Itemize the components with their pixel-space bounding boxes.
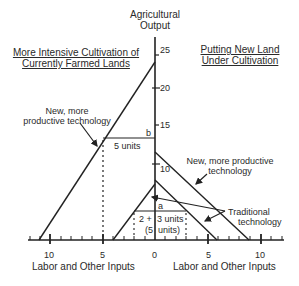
x-tick-left-10: 10 [44,250,54,260]
y-axis-ticks [152,55,160,164]
five-units-paren-right: units) [158,225,180,235]
traditional-label-line1: Traditional [228,207,282,217]
left-heading-line2: Currently Farmed Lands [8,58,144,69]
left-new-tech-line [39,62,155,240]
x-axis-label-right: Labor and Other Inputs [173,262,276,272]
x-axis-label-left: Labor and Other Inputs [32,262,135,272]
right-new-tech-label-line1: New, more productive [180,156,280,166]
left-new-tech-label-line2: productive technology [22,116,112,126]
y-axis-title: Agricultural Output [120,9,190,31]
left-new-tech-label: New, more productive technology [22,106,112,126]
x-tick-left-5: 5 [100,250,105,260]
traditional-label: Traditional technology [228,207,282,227]
y-tick-10: 10 [160,164,170,174]
point-a-label: a [158,201,163,211]
arrow-traditional-right [205,211,225,221]
right-heading-line1: Putting New Land [190,44,290,55]
two-plus-label: 2 + [139,214,152,224]
right-new-tech-label-line2: technology [180,166,280,176]
left-new-tech-label-line1: New, more [22,106,112,116]
traditional-label-line2: technology [228,217,282,227]
five-units-label: 5 units [114,141,141,151]
five-units-paren-left: (5 [145,225,153,235]
y-tick-15: 15 [160,120,170,130]
left-heading: More Intensive Cultivation of Currently … [8,47,144,69]
right-heading-line2: Under Cultivation [190,55,290,66]
left-heading-line1: More Intensive Cultivation of [8,47,144,58]
x-tick-zero: 0 [152,250,157,260]
right-new-tech-label: New, more productive technology [180,156,280,176]
diagram-canvas [0,0,299,286]
x-tick-right-5: 5 [206,250,211,260]
point-b-label: b [146,128,151,138]
three-units-label: 3 units [157,214,184,224]
y-tick-25: 25 [160,45,170,55]
right-heading: Putting New Land Under Cultivation [190,44,290,66]
y-axis-title-line1: Agricultural [120,9,190,20]
x-tick-right-10: 10 [255,250,265,260]
arrow-left-new-tech [80,123,97,146]
y-tick-20: 20 [160,83,170,93]
y-axis-title-line2: Output [120,20,190,31]
